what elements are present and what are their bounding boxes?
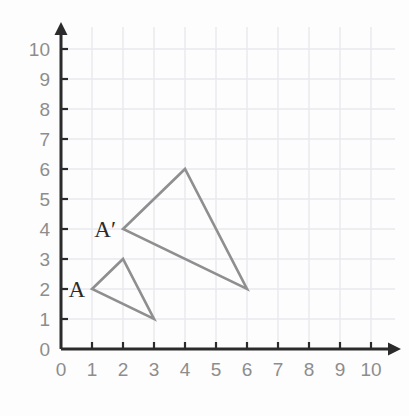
y-axis-tick-label: 4 (39, 220, 50, 239)
y-axis-tick-label: 10 (29, 40, 50, 59)
y-axis-tick-label: 2 (39, 280, 50, 299)
x-axis-tick-label: 0 (56, 360, 67, 379)
y-axis-tick-label: 7 (39, 130, 50, 149)
x-axis-tick-label: 9 (335, 360, 346, 379)
y-axis-tick-label: 6 (39, 160, 50, 179)
x-axis-tick-label: 7 (273, 360, 284, 379)
y-axis-tick-label: 9 (39, 70, 50, 89)
x-axis-tick-label: 5 (211, 360, 222, 379)
x-axis-tick-label: 8 (304, 360, 315, 379)
x-axis-tick-label: 10 (360, 360, 381, 379)
x-axis-arrow-icon (388, 343, 401, 356)
axis-lines (55, 22, 402, 356)
y-axis-tick-label: 0 (39, 340, 50, 359)
y-axis-tick-label: 3 (39, 250, 50, 269)
y-axis-arrow-icon (55, 22, 68, 35)
coordinate-plane (0, 0, 409, 416)
x-axis-tick-label: 1 (87, 360, 98, 379)
graph-screenshot: 012345678910012345678910AA′ (0, 0, 409, 416)
x-axis-tick-label: 4 (180, 360, 191, 379)
shape-label-a-prime: A′ (94, 218, 116, 241)
y-axis-tick-label: 8 (39, 100, 50, 119)
shape-label-a: A (68, 278, 85, 301)
x-axis-tick-label: 2 (118, 360, 129, 379)
grid-lines (61, 27, 395, 349)
plotted-shapes (92, 169, 247, 319)
y-axis-tick-label: 5 (39, 190, 50, 209)
x-axis-tick-label: 6 (242, 360, 253, 379)
y-axis-tick-label: 1 (39, 310, 50, 329)
x-axis-tick-label: 3 (149, 360, 160, 379)
